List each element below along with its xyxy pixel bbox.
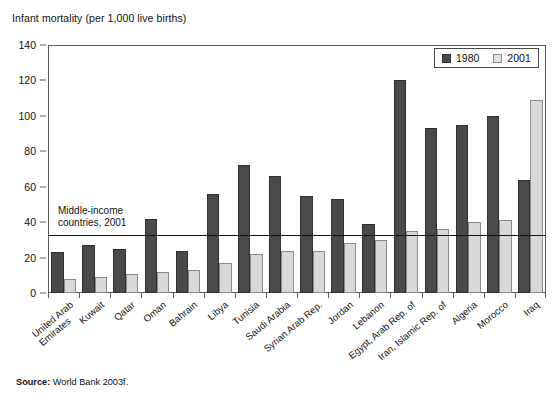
y-tick-label: 140 [18,40,36,50]
x-tick-mark [235,293,236,298]
x-axis-tick-label: Qatar [111,299,136,323]
bar-group [48,45,79,293]
bar-2001 [219,263,231,293]
bars-layer [48,45,546,293]
middle-income-reference-line [48,235,546,236]
x-axis-labels: United ArabEmiratesKuwaitQatarOmanBahrai… [48,299,546,369]
x-tick-mark [390,293,391,298]
bar-2001 [157,272,169,293]
chart-figure: Infant mortality (per 1,000 live births)… [0,0,559,396]
annotation-line: countries, 2001 [58,217,126,230]
x-tick-mark [484,293,485,298]
y-tick-mark [40,80,46,81]
bar-1980 [518,180,530,293]
bar-1980 [113,249,125,293]
middle-income-annotation: Middle-incomecountries, 2001 [58,205,126,230]
y-tick-mark [40,45,46,46]
x-axis-tick-label: Morocco [475,299,510,331]
bar-group [453,45,484,293]
bar-2001 [281,251,293,294]
y-tick-mark [40,186,46,187]
legend-item-1980: 1980 [442,52,479,64]
bar-2001 [530,100,542,293]
bar-group [235,45,266,293]
y-tick-mark [40,293,46,294]
bar-2001 [126,274,138,293]
x-axis-tick-label: Kuwait [77,299,106,326]
bar-1980 [176,251,188,294]
x-axis-tick-label-line: Qatar [111,299,136,323]
bar-1980 [425,128,437,293]
y-tick-label: 20 [24,253,36,263]
bar-group [204,45,235,293]
bar-2001 [95,277,107,293]
dark-gray-swatch-icon [442,54,451,63]
y-tick-label: 0 [30,288,36,298]
bar-2001 [188,270,200,293]
y-tick-label: 120 [18,75,36,85]
x-axis-tick-label-line: Oman [141,299,168,324]
y-tick-mark [40,222,46,223]
x-axis-tick-label: Syrian Arab Rep. [261,299,324,354]
bar-2001 [375,240,387,293]
x-tick-mark [453,293,454,298]
source-note: Source: World Bank 2003f. [16,377,128,387]
x-tick-mark [515,293,516,298]
bar-group [515,45,546,293]
y-tick-mark [40,115,46,116]
bar-group [390,45,421,293]
bar-2001 [499,220,511,293]
bar-2001 [406,231,418,293]
bar-1980 [300,196,312,293]
y-tick-label: 100 [18,111,36,121]
legend-item-2001: 2001 [493,52,530,64]
bar-group [173,45,204,293]
chart-legend: 1980 2001 [434,48,539,68]
bar-1980 [51,252,63,293]
x-axis-tick-label-line: Iraq [522,299,542,318]
x-tick-mark [79,293,80,298]
y-tick-label: 80 [24,146,36,156]
x-axis-tick-label: Bahrain [167,299,199,329]
bar-2001 [313,251,325,294]
bar-1980 [487,116,499,293]
source-text: World Bank 2003f. [50,377,128,387]
y-tick-mark [40,151,46,152]
light-gray-swatch-icon [493,54,502,63]
source-label: Source: [16,377,50,387]
x-tick-mark [266,293,267,298]
x-axis-tick-label: Libya [206,299,231,322]
bar-2001 [64,279,76,293]
y-tick-mark [40,257,46,258]
x-tick-mark [545,293,546,298]
bar-2001 [468,222,480,293]
x-axis-tick-label: Oman [141,299,168,324]
bar-group [328,45,359,293]
x-tick-mark [328,293,329,298]
bar-2001 [250,254,262,293]
bar-group [297,45,328,293]
bar-1980 [331,199,343,293]
x-tick-mark [297,293,298,298]
y-tick-label: 60 [24,182,36,192]
bar-group [141,45,172,293]
bar-group [79,45,110,293]
legend-label-1980: 1980 [456,52,479,64]
x-axis-tick-label-line: Bahrain [167,299,199,329]
bar-2001 [344,243,356,293]
annotation-line: Middle-income [58,205,126,218]
bar-1980 [456,125,468,293]
bar-group [422,45,453,293]
y-tick-label: 40 [24,217,36,227]
bar-group [266,45,297,293]
x-tick-mark [204,293,205,298]
bar-1980 [82,245,94,293]
bar-1980 [394,80,406,293]
x-tick-mark [110,293,111,298]
x-axis-tick-label-line: Morocco [475,299,510,331]
x-axis-tick-label-line: Libya [206,299,231,322]
bar-1980 [238,165,250,293]
x-tick-mark [359,293,360,298]
bar-group [359,45,390,293]
bar-1980 [145,219,157,293]
